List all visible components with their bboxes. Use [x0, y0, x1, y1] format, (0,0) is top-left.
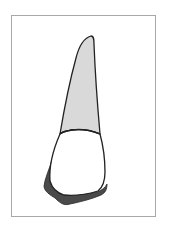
- tooth-illustration: [0, 0, 170, 232]
- tooth-crown: [50, 130, 105, 196]
- tooth-root: [60, 36, 100, 134]
